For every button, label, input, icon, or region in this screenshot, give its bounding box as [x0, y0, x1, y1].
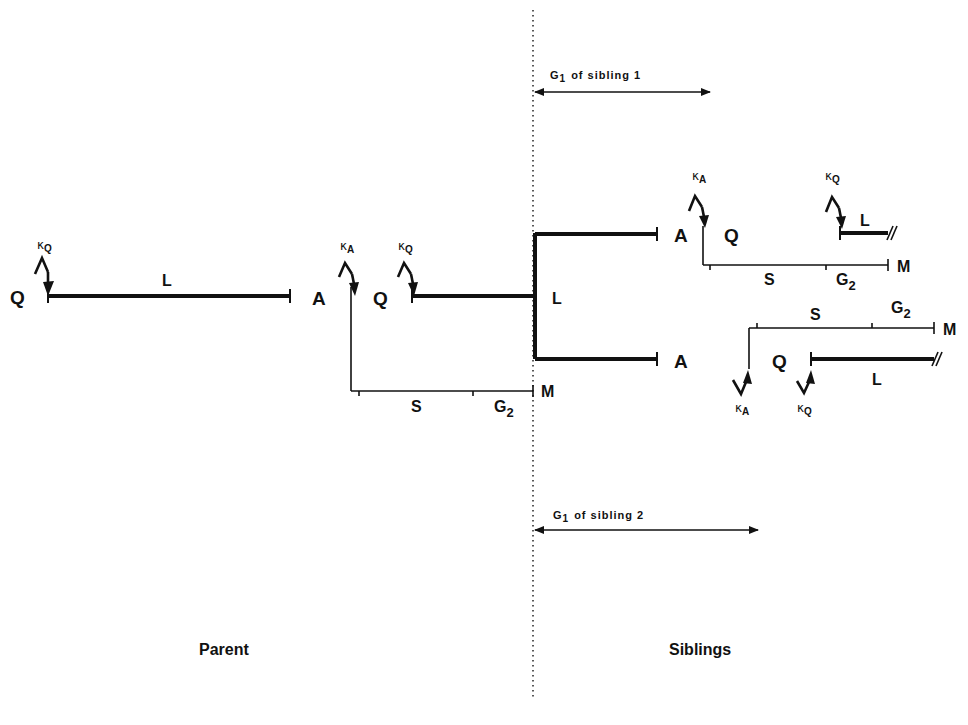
sibling1-s-label: S: [764, 271, 775, 288]
sibling1-g2-label: G2: [836, 271, 856, 293]
parent-second-kappa-q-label: κQ: [398, 239, 413, 255]
kappa-a-arrow-icon: [339, 263, 359, 296]
parent-section-label: Parent: [199, 641, 249, 658]
kappa-q-arrow-icon: [826, 197, 846, 229]
sibling1-kappa-q-label: κQ: [825, 169, 840, 185]
kappa-q-arrow-icon: [398, 263, 418, 296]
sibling2-kappa-a-label: κA: [735, 401, 749, 417]
parent-l-label: L: [162, 272, 172, 289]
g1-sibling2-label: G1of sibling 2: [553, 509, 644, 524]
parent-s-label: S: [411, 398, 422, 415]
siblings-section-label: Siblings: [669, 641, 731, 658]
parent-kappa-a-label: κA: [340, 239, 354, 255]
kappa-q-arrow-icon: [35, 258, 54, 296]
sibling2-s-label: S: [810, 306, 821, 323]
sibling1-l-label: L: [860, 212, 870, 229]
parent-kappa-q-label: κQ: [37, 238, 52, 254]
cell-cycle-diagram: Q κQ L A κA Q κQ L S G2 M G1of sibling 1…: [0, 0, 968, 725]
sibling2-m-label: M: [943, 321, 956, 338]
parent-second-q-label: Q: [373, 288, 388, 309]
kappa-q-arrow-icon: [797, 370, 815, 393]
sibling1-kappa-a-label: κA: [692, 169, 706, 185]
sibling2-q-label: Q: [772, 351, 787, 372]
parent-m-label: M: [541, 383, 554, 400]
parent-a-label: A: [312, 288, 326, 309]
sibling2-l-label: L: [872, 371, 882, 388]
sibling2-a-label: A: [674, 351, 688, 372]
sibling1-q-label: Q: [724, 225, 739, 246]
sibling2-kappa-q-label: κQ: [797, 401, 812, 417]
g1-sibling1-label: G1of sibling 1: [550, 69, 641, 84]
branch-l-label: L: [552, 290, 562, 307]
sibling1-a-label: A: [674, 225, 688, 246]
parent-q-label: Q: [10, 287, 25, 308]
parent-g2-label: G2: [494, 398, 514, 420]
sibling1-m-label: M: [897, 258, 910, 275]
sibling2-g2-label: G2: [891, 299, 911, 321]
kappa-a-arrow-icon: [733, 370, 752, 394]
kappa-a-arrow-icon: [689, 196, 709, 228]
